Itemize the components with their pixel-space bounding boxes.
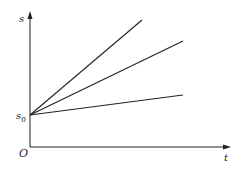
y-axis-label: s: [19, 13, 24, 24]
s-t-diagram: s t O s0: [0, 0, 242, 170]
x-axis-label: t: [224, 152, 229, 163]
line-shallow: [30, 95, 183, 115]
intercept-label: s0: [16, 110, 26, 124]
y-axis-arrow-icon: [28, 11, 33, 19]
line-medium: [30, 41, 183, 115]
line-steep: [30, 20, 142, 115]
x-axis-arrow-icon: [223, 145, 231, 150]
origin-label: O: [19, 147, 28, 160]
